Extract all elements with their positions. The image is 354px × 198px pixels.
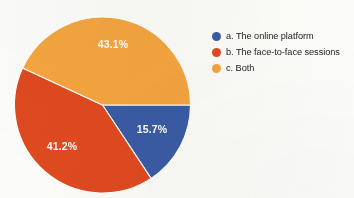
legend-swatch-both: [212, 64, 221, 73]
legend-item-online-platform[interactable]: a. The online platform: [210, 30, 354, 43]
pie-data-label-both: 43.1%: [98, 38, 129, 50]
legend-label-online-platform: a. The online platform: [226, 30, 314, 43]
legend-item-face-to-face-sessions[interactable]: b. The face-to-face sessions: [210, 46, 354, 59]
legend-swatch-online-platform: [212, 32, 221, 41]
legend-label-face-to-face-sessions: b. The face-to-face sessions: [226, 46, 340, 59]
pie-data-label-face-to-face-sessions: 41.2%: [47, 140, 78, 152]
legend-swatch-face-to-face-sessions: [212, 48, 221, 57]
legend-label-both: c. Both: [226, 62, 254, 75]
legend-item-both[interactable]: c. Both: [210, 62, 354, 75]
chart-legend: a. The online platform b. The face-to-fa…: [210, 30, 354, 79]
pie-data-label-online-platform: 15.7%: [137, 123, 168, 135]
pie-chart-figure: 15.7%41.2%43.1% a. The online platform b…: [0, 0, 354, 198]
pie-svg: 15.7%41.2%43.1%: [0, 0, 210, 198]
pie-plot-area: 15.7%41.2%43.1%: [0, 0, 210, 198]
